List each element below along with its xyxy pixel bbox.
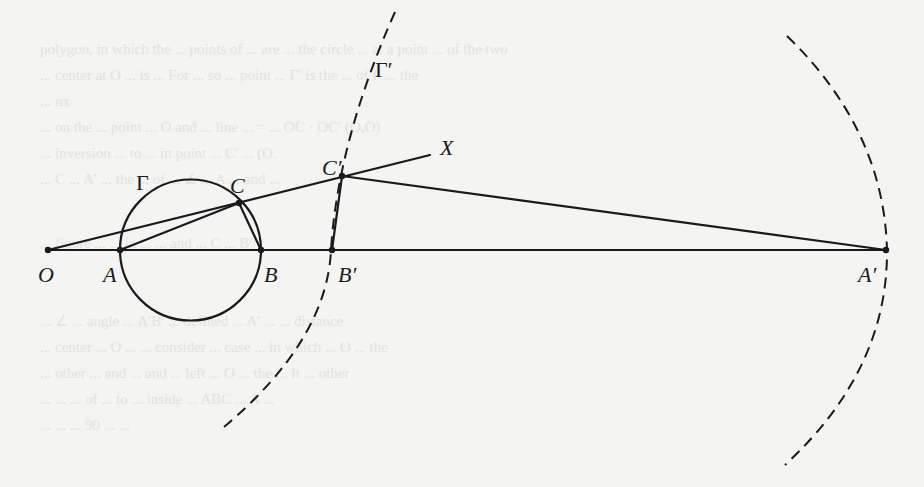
label-C: C	[230, 173, 245, 198]
point-A	[117, 247, 123, 253]
point-Aprime	[883, 247, 889, 253]
label-gamma: Γ	[136, 170, 149, 195]
point-Bprime	[329, 247, 335, 253]
figure-canvas: polygon, in which the ... points of ... …	[0, 0, 924, 487]
segment-Cprime-Aprime	[342, 176, 886, 250]
inversion-diagram: O A B B′ A′ C C′ X Γ Γ′	[0, 0, 924, 487]
label-gamma-prime: Γ′	[375, 57, 393, 82]
label-A: A	[101, 262, 117, 287]
segment-Cprime-Bprime	[332, 176, 342, 250]
label-B: B	[264, 262, 277, 287]
point-O	[45, 247, 51, 253]
point-B	[258, 247, 264, 253]
label-Bprime: B′	[338, 262, 357, 287]
label-X: X	[439, 135, 455, 160]
label-O: O	[38, 262, 54, 287]
label-Aprime: A′	[856, 262, 877, 287]
segment-A-C	[120, 203, 239, 250]
label-Cprime: C′	[322, 155, 343, 180]
arc-gamma-prime-left	[224, 12, 395, 427]
point-C	[236, 200, 242, 206]
